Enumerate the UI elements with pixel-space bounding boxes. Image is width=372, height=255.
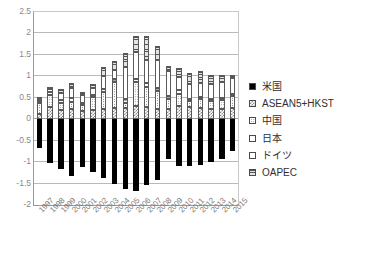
bar-segment-doitsu: [133, 52, 138, 78]
legend-item-asean[interactable]: ASEAN5+HKST: [249, 95, 369, 112]
bar-segment-beikoku: [69, 119, 74, 176]
legend-label: ドイツ: [262, 150, 292, 161]
bar-segment-beikoku: [101, 119, 106, 177]
bar-segment-beikoku: [133, 119, 138, 191]
bar-segment-oapec: [155, 46, 160, 60]
bar-column: [112, 12, 117, 205]
legend-item-beikoku[interactable]: 米国: [249, 78, 369, 95]
bar-segment-asean: [198, 108, 203, 119]
bar-segment-beikoku: [187, 119, 192, 165]
bar-stack-positive: [144, 36, 149, 119]
bar-stack-negative: [176, 119, 181, 166]
bar-stack-positive: [176, 68, 181, 119]
legend-item-chugoku[interactable]: 中国: [249, 112, 369, 129]
bar-segment-beikoku: [80, 119, 85, 167]
bar-segment-beikoku: [58, 119, 63, 169]
bar-segment-doitsu: [69, 88, 74, 98]
bar-stack-positive: [47, 87, 52, 119]
bar-stack-positive: [219, 75, 224, 120]
bar-segment-doitsu: [144, 60, 149, 84]
bar-stack-negative: [133, 119, 138, 191]
bar-segment-doitsu: [90, 88, 95, 95]
bar-segment-beikoku: [37, 119, 42, 148]
legend-item-oapec[interactable]: OAPEC: [249, 164, 369, 181]
bar-segment-doitsu: [80, 95, 85, 102]
bar-segment-oapec: [198, 71, 203, 83]
bar-segment-asean: [112, 108, 117, 119]
bar-segment-doitsu: [155, 60, 160, 87]
bar-column: [133, 12, 138, 205]
bar-segment-beikoku: [90, 119, 95, 171]
bar-stack-positive: [208, 75, 213, 119]
bar-column: [166, 12, 171, 205]
bar-segment-asean: [144, 107, 149, 119]
bar-segment-chugoku: [144, 87, 149, 107]
bar-segment-chugoku: [166, 99, 171, 108]
bar-stack-negative: [80, 119, 85, 167]
bar-segment-beikoku: [208, 119, 213, 162]
bar-stack-positive: [80, 92, 85, 119]
bar-segment-asean: [133, 106, 138, 119]
bar-stack-positive: [187, 73, 192, 119]
bar-segment-oapec: [101, 67, 106, 76]
bar-segment-chugoku: [176, 94, 181, 106]
bar-segment-chugoku: [69, 102, 74, 109]
y-axis-tick-label: -2: [3, 200, 31, 208]
legend-swatch-icon: [249, 117, 256, 124]
y-axis-labels: 2.521.510.50-0.5-1-1.5-2: [0, 0, 31, 255]
bar-column: [187, 12, 192, 205]
legend-item-doitsu[interactable]: ドイツ: [249, 147, 369, 164]
bar-segment-asean: [176, 106, 181, 119]
bar-segment-doitsu: [166, 71, 171, 96]
bar-segment-beikoku: [176, 119, 181, 166]
y-axis-tick-label: -0.5: [3, 136, 31, 144]
y-axis-tick-label: 2.5: [3, 7, 31, 15]
legend-label: ASEAN5+HKST: [262, 98, 334, 109]
y-axis-tick-label: -1: [3, 157, 31, 165]
bar-column: [58, 12, 63, 205]
bar-segment-beikoku: [198, 119, 203, 164]
bar-segment-oapec: [144, 36, 149, 59]
bar-stack-positive: [155, 46, 160, 119]
bar-segment-chugoku: [37, 103, 42, 114]
bar-stack-positive: [69, 83, 74, 119]
bar-segment-oapec: [112, 61, 117, 70]
bar-column: [37, 12, 42, 205]
bar-stack-positive: [58, 89, 63, 119]
bar-stack-negative: [166, 119, 171, 159]
bar-stack-positive: [198, 71, 203, 119]
legend-label: 中国: [262, 115, 282, 126]
bar-segment-asean: [90, 110, 95, 119]
bar-stack-negative: [47, 119, 52, 163]
bar-segment-doitsu: [198, 83, 203, 98]
bar-column: [208, 12, 213, 205]
bar-segment-beikoku: [47, 119, 52, 163]
bar-segment-doitsu: [58, 93, 63, 100]
legend-item-nihon[interactable]: 日本: [249, 130, 369, 147]
bar-column: [198, 12, 203, 205]
bar-stack-negative: [208, 119, 213, 162]
bar-column: [90, 12, 95, 205]
bar-segment-chugoku: [208, 101, 213, 109]
bar-column: [123, 12, 128, 205]
bar-segment-beikoku: [144, 119, 149, 185]
y-axis-tick-label: 0: [3, 114, 31, 122]
bar-stack-positive: [166, 66, 171, 119]
bar-stack-positive: [133, 36, 138, 119]
bar-stack-positive: [123, 53, 128, 119]
bar-segment-oapec: [133, 36, 138, 52]
bar-segment-asean: [166, 109, 171, 120]
bar-segment-oapec: [176, 68, 181, 77]
legend-swatch-icon: [249, 152, 256, 159]
bar-segment-chugoku: [219, 100, 224, 109]
bar-segment-doitsu: [123, 67, 128, 99]
bar-stack-positive: [101, 66, 106, 119]
bar-stack-negative: [230, 119, 235, 151]
y-axis-tick-label: 2: [3, 28, 31, 36]
bar-column: [230, 12, 235, 205]
bar-segment-chugoku: [58, 103, 63, 110]
y-axis-tick-label: 1.5: [3, 50, 31, 58]
bar-segment-asean: [187, 107, 192, 119]
bar-segment-asean: [58, 110, 63, 119]
bar-segment-asean: [80, 111, 85, 119]
